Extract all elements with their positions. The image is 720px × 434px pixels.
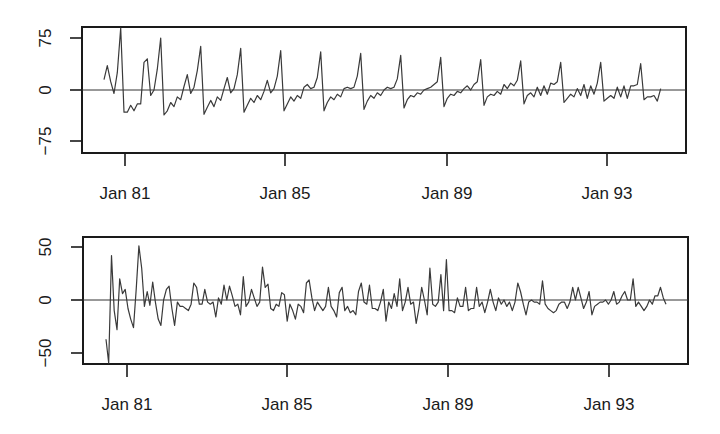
- top-y-tick-label: 0: [36, 85, 55, 94]
- top-y-axis: 75 0 −75: [36, 29, 82, 156]
- bottom-panel: 50 0 −50 Jan 81 Jan 85 Jan 89 Jan 93: [36, 237, 688, 414]
- bottom-x-tick-label: Jan 81: [101, 395, 152, 414]
- bottom-x-tick-label: Jan 85: [261, 395, 312, 414]
- time-series-figure: 75 0 −75 Jan 81 Jan 85 Jan 89 Jan 93 50 …: [0, 0, 720, 434]
- top-x-tick-label: Jan 89: [421, 184, 472, 203]
- bottom-x-tick-label: Jan 89: [422, 395, 473, 414]
- bottom-x-axis: Jan 81 Jan 85 Jan 89 Jan 93: [101, 364, 634, 414]
- top-x-tick-label: Jan 93: [581, 184, 632, 203]
- bottom-series-line: [106, 246, 666, 363]
- top-x-tick-label: Jan 81: [99, 184, 150, 203]
- bottom-y-tick-label: 0: [36, 295, 55, 304]
- top-series-line: [104, 28, 661, 115]
- bottom-x-tick-label: Jan 93: [583, 395, 634, 414]
- bottom-y-tick-label: −50: [36, 339, 55, 368]
- bottom-y-tick-label: 50: [36, 238, 55, 257]
- top-y-tick-label: −75: [36, 127, 55, 156]
- top-x-axis: Jan 81 Jan 85 Jan 89 Jan 93: [99, 153, 632, 203]
- top-y-tick-label: 75: [36, 29, 55, 48]
- bottom-y-axis: 50 0 −50: [36, 238, 83, 368]
- top-x-tick-label: Jan 85: [259, 184, 310, 203]
- top-panel: 75 0 −75 Jan 81 Jan 85 Jan 89 Jan 93: [36, 27, 686, 203]
